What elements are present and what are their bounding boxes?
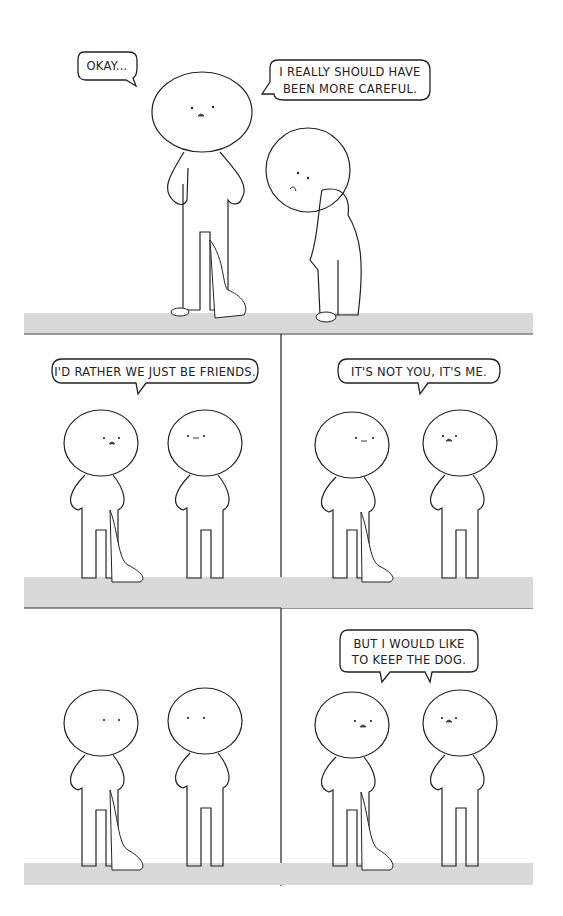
bubble-text-line-1: BUT I WOULD LIKE [353, 637, 464, 651]
bubble-text: OKAY... [86, 59, 127, 73]
figure-bent [266, 128, 361, 322]
speech-bubble-okay: OKAY... [78, 52, 137, 86]
speech-bubble-careful: I REALLY SHOULD HAVE BEEN MORE CAREFUL. [262, 60, 430, 100]
panel-5: BUT I WOULD LIKE TO KEEP THE DOG. [281, 630, 533, 885]
figure-right [168, 410, 242, 578]
bubble-text: IT'S NOT YOU, IT'S ME. [351, 365, 487, 379]
speech-bubble-keep-dog: BUT I WOULD LIKE TO KEEP THE DOG. [340, 630, 478, 682]
bubble-text-line-2: BEEN MORE CAREFUL. [283, 82, 417, 96]
figure-left [64, 690, 143, 870]
figure-right [423, 690, 497, 866]
panel-2: I'D RATHER WE JUST BE FRIENDS. [24, 359, 533, 608]
speech-bubble-friends: I'D RATHER WE JUST BE FRIENDS. [52, 359, 258, 394]
figure-right [423, 410, 497, 578]
comic-strip: OKAY... I REALLY SHOULD HAVE BEEN MORE C… [0, 0, 563, 916]
panel-3: IT'S NOT YOU, IT'S ME. [281, 359, 533, 608]
panel-1: OKAY... I REALLY SHOULD HAVE BEEN MORE C… [24, 52, 533, 334]
bubble-text-line-2: TO KEEP THE DOG. [351, 653, 466, 667]
figure-left [64, 410, 143, 582]
bubble-text: I'D RATHER WE JUST BE FRIENDS. [54, 365, 256, 379]
panel-4 [24, 688, 281, 885]
ground-band [24, 313, 533, 333]
bubble-text-line-1: I REALLY SHOULD HAVE [279, 65, 420, 79]
speech-bubble-not-you: IT'S NOT YOU, IT'S ME. [338, 359, 500, 394]
figure-right [168, 688, 242, 866]
figure-left [315, 692, 393, 870]
figure-standing [152, 72, 252, 318]
figure-left [315, 412, 393, 582]
